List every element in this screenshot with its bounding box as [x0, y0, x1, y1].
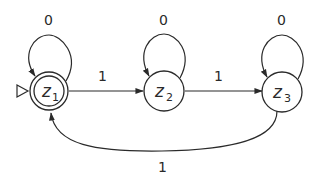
svg-text:1: 1 [52, 91, 59, 104]
state-diagram: z 1 z 2 z 3 0 0 0 1 1 1 [0, 0, 311, 182]
label-loop-z2: 0 [159, 12, 168, 28]
label-z2-z3: 1 [214, 68, 223, 84]
state-z2: z 2 [144, 71, 184, 111]
label-z3-z1: 1 [158, 159, 167, 175]
edge-z3-z1 [51, 111, 277, 151]
label-loop-z3: 0 [277, 12, 286, 28]
initial-state-arrow-icon [17, 85, 28, 97]
label-loop-z1: 0 [44, 12, 53, 28]
label-z1-z2: 1 [98, 68, 107, 84]
state-z3: z 3 [262, 72, 302, 112]
svg-text:z: z [154, 81, 165, 101]
svg-text:z: z [272, 82, 283, 102]
state-z1: z 1 [30, 72, 68, 110]
svg-text:3: 3 [284, 92, 291, 105]
svg-text:z: z [41, 81, 52, 101]
svg-text:2: 2 [166, 91, 173, 104]
